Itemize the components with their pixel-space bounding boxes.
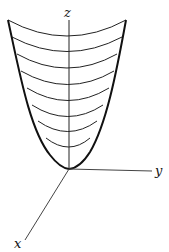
z-axis-label: z <box>63 5 71 20</box>
level-curve <box>8 20 126 36</box>
y-axis-label: y <box>154 163 163 178</box>
x-axis-label: x <box>14 236 22 251</box>
paraboloid-diagram: z y x <box>0 0 169 252</box>
level-curve <box>21 71 114 85</box>
level-curves <box>8 20 126 147</box>
level-curve <box>32 105 103 117</box>
x-axis <box>25 169 69 240</box>
y-axis <box>69 169 152 171</box>
level-curve <box>46 138 90 147</box>
level-curve <box>27 88 109 101</box>
level-curve <box>12 37 122 52</box>
level-curve <box>17 54 117 68</box>
level-curve <box>38 121 97 132</box>
